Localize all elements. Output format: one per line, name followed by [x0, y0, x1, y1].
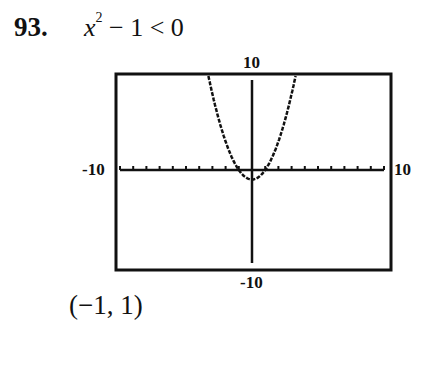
ymin-label: -10: [240, 273, 263, 293]
xmin-label: -10: [82, 160, 105, 180]
calculator-graph: [0, 0, 442, 370]
answer-interval: (−1, 1): [69, 290, 143, 321]
xmax-label: 10: [394, 160, 411, 180]
ymax-label: 10: [243, 53, 260, 73]
graph-window-frame: [116, 74, 391, 270]
